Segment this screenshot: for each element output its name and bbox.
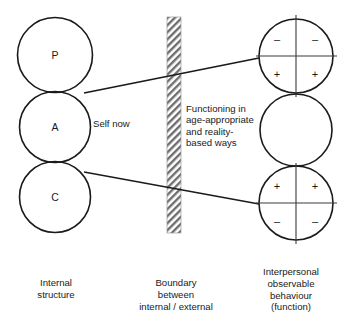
adult-ego-state-label: A <box>51 121 58 133</box>
functioning-note: Functioning in age-appropriate and reali… <box>186 103 254 149</box>
hatched-boundary-band <box>167 17 181 233</box>
upper-circle-top-right-sign: – <box>312 33 319 45</box>
middle-function-circle <box>260 94 332 166</box>
caption-boundary: Boundary between internal / external <box>122 277 230 312</box>
child-ego-state-label: C <box>51 191 59 203</box>
upper-circle-bottom-left-sign: + <box>274 68 280 80</box>
caption-interpersonal-behaviour: Interpersonal observable behaviour (func… <box>244 266 338 313</box>
parent-ego-state-label: P <box>51 49 58 61</box>
lower-circle-bottom-right-sign: – <box>312 215 319 227</box>
upper-circle-top-left-sign: – <box>274 33 281 45</box>
lower-circle-top-left-sign: + <box>274 180 280 192</box>
caption-internal-structure: Internal structure <box>10 277 102 301</box>
lower-circle-top-right-sign: + <box>312 180 318 192</box>
upper-circle-bottom-right-sign: + <box>312 68 318 80</box>
lower-circle-bottom-left-sign: – <box>274 215 281 227</box>
self-now-label: Self now <box>93 118 130 129</box>
diagram-canvas: P A C – – + + + + – – Self now Functioni… <box>0 0 344 332</box>
